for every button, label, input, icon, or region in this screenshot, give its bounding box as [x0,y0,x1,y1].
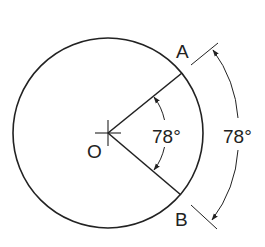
arc-dimension-upper [213,50,238,118]
label-center-o: O [87,141,102,162]
arc-dimension-lower [212,150,238,220]
label-arc-dimension: 78° [223,126,252,147]
label-point-a: A [176,41,189,62]
label-point-b: B [175,209,188,230]
label-central-angle: 78° [152,126,181,147]
circle-diagram: A B O 78° 78° [0,0,265,247]
extension-line-b [191,205,217,229]
extension-line-a [191,43,218,65]
central-angle-arc-lower [154,147,165,170]
central-angle-arc-upper [154,97,165,120]
radius-oa [108,73,182,133]
